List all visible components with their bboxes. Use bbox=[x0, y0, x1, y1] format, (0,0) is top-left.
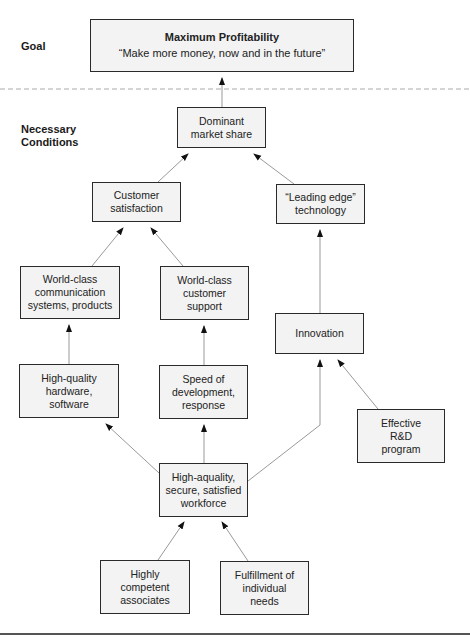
node-label: “Leading edge” technology bbox=[285, 191, 356, 217]
node-label: High-quality hardware, software bbox=[41, 372, 96, 411]
goal-subtitle: “Make more money, now and in the future” bbox=[119, 47, 325, 60]
node-workforce: High-aquality, secure, satisfied workfor… bbox=[159, 463, 248, 517]
node-fulfillment-of-needs: Fulfillment of individual needs bbox=[220, 561, 309, 615]
node-customer-satisfaction: Customer satisfaction bbox=[92, 182, 181, 222]
node-speed-of-development: Speed of development, response bbox=[159, 365, 248, 419]
goal-title: Maximum Profitability bbox=[165, 31, 279, 44]
node-label: Highly competent associates bbox=[120, 568, 170, 607]
node-label: World-class customer support bbox=[177, 274, 232, 313]
node-label: Effective R&D program bbox=[381, 417, 421, 456]
bottom-rule bbox=[0, 633, 470, 635]
node-highly-competent-associates: Highly competent associates bbox=[100, 560, 190, 614]
node-label: Innovation bbox=[295, 327, 343, 340]
node-dominant-market-share: Dominant market share bbox=[177, 107, 266, 148]
node-innovation: Innovation bbox=[275, 313, 364, 354]
node-label: Fulfillment of individual needs bbox=[235, 569, 295, 608]
node-label: Dominant market share bbox=[191, 115, 252, 141]
node-label: World-class communication systems, produ… bbox=[28, 273, 113, 312]
node-label: High-aquality, secure, satisfied workfor… bbox=[166, 471, 242, 510]
node-world-class-communication: World-class communication systems, produ… bbox=[20, 266, 120, 319]
node-label: Speed of development, response bbox=[172, 373, 235, 412]
goal-box: Maximum Profitability “Make more money, … bbox=[90, 19, 354, 72]
node-high-quality-hardware: High-quality hardware, software bbox=[19, 364, 119, 418]
node-effective-rnd: Effective R&D program bbox=[357, 409, 445, 463]
node-leading-edge-technology: “Leading edge” technology bbox=[276, 184, 365, 224]
node-world-class-support: World-class customer support bbox=[160, 266, 249, 320]
node-label: Customer satisfaction bbox=[110, 189, 163, 215]
